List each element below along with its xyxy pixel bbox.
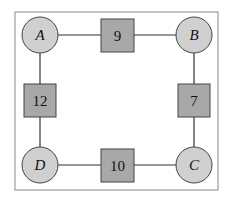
weight-box-d-c: 10 <box>101 149 134 182</box>
node-b: B <box>176 17 212 53</box>
node-label: A <box>34 27 45 43</box>
weight-box-b-c: 7 <box>178 84 210 117</box>
node-d: D <box>22 147 58 183</box>
graph-diagram: 9 7 10 12 A B C D <box>0 0 231 202</box>
weight-label: 9 <box>114 28 122 44</box>
node-label: D <box>34 157 46 173</box>
weight-label: 10 <box>110 158 125 174</box>
weight-label: 12 <box>33 93 48 109</box>
weight-box-a-d: 12 <box>24 84 56 117</box>
node-c: C <box>176 147 212 183</box>
weight-label: 7 <box>190 93 198 109</box>
node-label: C <box>189 157 200 173</box>
weight-box-a-b: 9 <box>101 19 134 52</box>
node-label: B <box>189 27 198 43</box>
node-a: A <box>22 17 58 53</box>
